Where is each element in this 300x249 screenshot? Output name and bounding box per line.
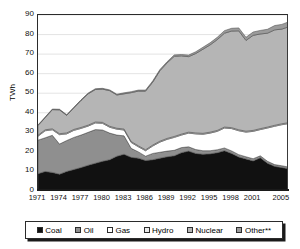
x-tick-label: 1971	[29, 193, 46, 202]
legend-label: Gas	[115, 226, 130, 235]
y-tick-label: 30	[12, 127, 34, 135]
legend-item-coal[interactable]: Coal	[37, 226, 62, 235]
legend-swatch-icon	[236, 227, 242, 233]
legend-swatch-icon	[37, 227, 43, 233]
x-tick-label: 1983	[115, 193, 132, 202]
legend-label: Coal	[45, 226, 61, 235]
legend-swatch-icon	[187, 227, 193, 233]
y-tick-label: 40	[12, 108, 34, 116]
legend-swatch-icon	[144, 227, 150, 233]
y-tick-label: 20	[12, 147, 34, 155]
x-tick-label: 2005	[272, 193, 289, 202]
y-tick-label: 10	[12, 166, 34, 174]
x-axis-tick-labels: 1971197419771980198319861989199219951998…	[0, 193, 300, 207]
legend-label: Other**	[245, 226, 271, 235]
y-tick-label: 80	[12, 30, 34, 38]
legend-item-nuclear[interactable]: Nuclear	[187, 226, 223, 235]
x-tick-label: 1998	[222, 193, 239, 202]
x-tick-label: 1995	[201, 193, 218, 202]
legend-item-oil[interactable]: Oil	[75, 226, 93, 235]
legend-item-hydro[interactable]: Hydro	[144, 226, 174, 235]
x-tick-label: 1977	[72, 193, 89, 202]
chart-figure: TWh 0102030405060708090 1971197419771980…	[0, 0, 300, 249]
plot-area	[37, 14, 288, 190]
stacked-area-svg	[38, 15, 288, 190]
x-tick-label: 2001	[244, 193, 261, 202]
y-tick-label: 70	[12, 49, 34, 57]
legend-item-other[interactable]: Other**	[236, 226, 271, 235]
legend-swatch-icon	[75, 227, 81, 233]
x-tick-label: 1989	[158, 193, 175, 202]
x-tick-label: 1974	[50, 193, 67, 202]
x-tick-label: 1992	[179, 193, 196, 202]
legend-label: Oil	[84, 226, 94, 235]
chart-legend: CoalOilGasHydroNuclearOther**	[25, 221, 283, 239]
y-tick-label: 90	[12, 10, 34, 18]
y-axis-tick-labels: 0102030405060708090	[8, 0, 34, 249]
legend-label: Hydro	[152, 226, 173, 235]
x-tick-label: 1986	[136, 193, 153, 202]
x-tick-label: 1980	[93, 193, 110, 202]
legend-label: Nuclear	[195, 226, 223, 235]
legend-item-gas[interactable]: Gas	[107, 226, 130, 235]
x-axis-baseline	[37, 189, 289, 191]
y-tick-label: 60	[12, 69, 34, 77]
y-tick-label: 50	[12, 88, 34, 96]
legend-swatch-icon	[107, 227, 113, 233]
